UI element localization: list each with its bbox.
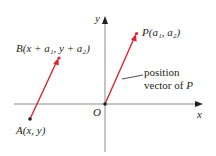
point-a [28,117,32,121]
point-p-label: P(a₁, a₂) [142,27,180,38]
vector-diagram: y x O B(x + a₁, y + a₂) P(a₁, a₂) A(x, y… [0,0,216,156]
vector-op [105,38,134,104]
annotation-line-2-var: P [186,79,193,91]
x-axis-label: x [197,109,202,120]
point-b-name: B [16,42,23,54]
annotation-pointer [122,75,143,79]
point-a-coords: (x, y) [23,124,46,136]
annotation-line-2-text: vector of [144,79,183,91]
point-p-coords: (a₁, a₂) [149,26,180,38]
origin-label: O [93,107,101,118]
point-b [57,56,60,59]
origin-point [103,102,107,106]
point-p [135,32,138,35]
annotation-line-2: vector of P [144,80,193,91]
point-b-label: B(x + a₁, y + a₂) [16,43,90,54]
point-b-coords: (x + a₁, y + a₂) [23,42,90,54]
y-axis-arrow-icon [102,16,108,24]
point-a-name: A [16,124,23,136]
x-axis-arrow-icon [195,101,203,107]
vector-op-arrowhead-icon [131,34,137,42]
point-a-label: A(x, y) [16,125,45,136]
point-p-name: P [142,26,149,38]
y-axis-label: y [95,13,100,24]
annotation-line-1: position [144,67,179,78]
vector-ab [30,62,57,119]
